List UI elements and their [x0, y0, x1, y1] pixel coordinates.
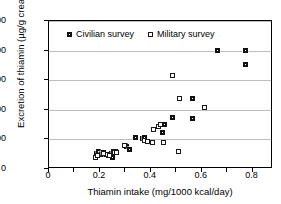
- x-tick-label: 0.8: [232, 171, 272, 180]
- y-tick-label: 100: [0, 134, 6, 143]
- open-square-icon: [148, 32, 153, 37]
- data-point-civilian: [127, 147, 132, 152]
- data-point-civilian: [190, 96, 195, 101]
- gridline: [49, 80, 271, 81]
- x-tick-label: 0: [28, 171, 68, 180]
- legend-item-military: Military survey: [148, 29, 215, 39]
- data-point-military: [176, 149, 181, 154]
- y-tick-mark: [44, 50, 48, 51]
- data-point-military: [150, 140, 155, 145]
- y-tick-mark: [44, 79, 48, 80]
- x-tick-mark: [124, 168, 125, 172]
- x-tick-label: 0.2: [79, 171, 119, 180]
- data-point-civilian: [162, 122, 167, 127]
- gridline: [49, 21, 271, 22]
- gridline: [49, 51, 271, 52]
- data-point-civilian: [133, 135, 138, 140]
- legend-label-civilian: Civilian survey: [76, 29, 134, 39]
- data-point-military: [161, 140, 166, 145]
- data-point-civilian: [170, 115, 175, 120]
- data-point-military: [158, 122, 163, 127]
- x-tick-label: 0.6: [181, 171, 221, 180]
- y-axis-title: Excretion of thiamin (µg/g creatinine): [15, 0, 26, 131]
- x-tick-mark: [150, 168, 151, 172]
- y-tick-label: 300: [0, 75, 6, 84]
- y-tick-mark: [44, 20, 48, 21]
- x-axis-title: Thiamin intake (mg/1000 kcal/day): [48, 186, 272, 197]
- x-tick-mark: [252, 168, 253, 172]
- data-point-civilian: [160, 130, 165, 135]
- data-point-military: [122, 143, 127, 148]
- data-point-military: [114, 150, 119, 155]
- x-tick-mark: [73, 168, 74, 172]
- data-point-military: [170, 73, 175, 78]
- chart-legend: Civilian survey Military survey: [67, 29, 215, 39]
- scatter-chart-figure: Excretion of thiamin (µg/g creatinine) C…: [0, 0, 281, 204]
- y-tick-mark: [44, 138, 48, 139]
- y-tick-label: 400: [0, 46, 6, 55]
- data-point-civilian: [215, 48, 220, 53]
- x-tick-mark: [48, 168, 49, 172]
- x-tick-mark: [99, 168, 100, 172]
- legend-item-civilian: Civilian survey: [67, 29, 134, 39]
- data-point-military: [177, 96, 182, 101]
- plot-area: Civilian survey Military survey: [48, 20, 272, 168]
- data-point-military: [95, 153, 100, 158]
- x-tick-mark: [175, 168, 176, 172]
- y-tick-mark: [44, 109, 48, 110]
- x-tick-mark: [201, 168, 202, 172]
- gridline: [49, 110, 271, 111]
- filled-square-icon: [67, 32, 72, 37]
- data-point-civilian: [243, 62, 248, 67]
- data-point-civilian: [190, 116, 195, 121]
- x-tick-mark: [226, 168, 227, 172]
- y-tick-label: 200: [0, 105, 6, 114]
- y-tick-label: 0: [0, 164, 6, 173]
- data-point-civilian: [243, 48, 248, 53]
- legend-label-military: Military survey: [157, 29, 215, 39]
- x-tick-label: 0.4: [130, 171, 170, 180]
- y-tick-label: 500: [0, 16, 6, 25]
- data-point-military: [202, 105, 207, 110]
